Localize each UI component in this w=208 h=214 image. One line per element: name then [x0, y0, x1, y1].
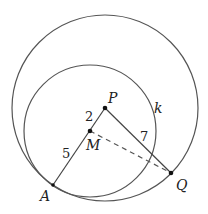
length-PM: 2: [85, 109, 93, 124]
point-P: [103, 106, 108, 111]
label-k: k: [154, 100, 162, 116]
label-P: P: [107, 90, 118, 106]
point-Q: [169, 171, 174, 176]
point-A: [51, 183, 55, 187]
label-M: M: [85, 137, 101, 153]
label-Q: Q: [176, 177, 188, 193]
point-M: [88, 129, 93, 134]
geometry-diagram: P M A Q k 2 5 7: [0, 0, 208, 214]
segment-PQ: [105, 108, 171, 173]
label-A: A: [38, 188, 50, 204]
segment-MQ-dashed: [90, 131, 171, 173]
length-MA: 5: [62, 146, 70, 161]
length-PQ: 7: [140, 129, 148, 144]
